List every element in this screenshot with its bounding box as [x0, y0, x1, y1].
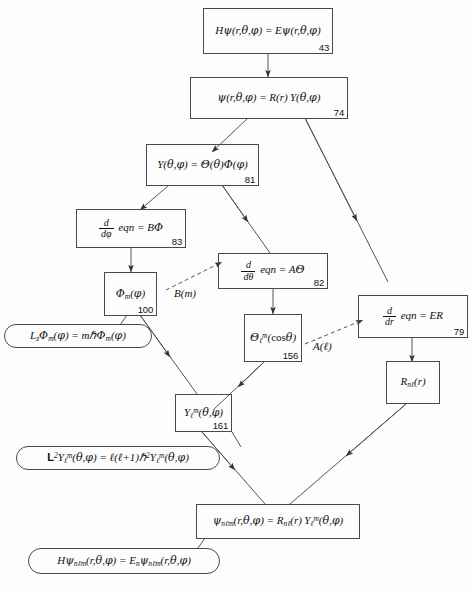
node-y-separation: Y(θ,φ) = Θ(θ)Φ(φ) 81 — [146, 144, 259, 186]
node-equation: Hψnℓm(r,θ,φ) = Enψnℓm(r,θ,φ) — [57, 554, 191, 569]
node-page-number: 161 — [213, 420, 228, 431]
node-equation: L2Yℓm(θ,φ) = ℓ(ℓ+1)ℏ2Yℓm(θ,φ) — [47, 451, 189, 466]
node-equation: Rnℓ(r) — [400, 375, 425, 390]
node-theta-lm-solution: Θℓm(cosθ) 156 — [244, 314, 302, 362]
edge-81-to-82-head — [222, 185, 248, 222]
edge-label-a-of-ell: A(ℓ) — [313, 340, 332, 352]
node-equation: Y(θ,φ) = Θ(θ)Φ(φ) — [157, 158, 248, 172]
edge-R-to-psi — [290, 404, 406, 504]
edge-psi-to-H — [198, 538, 205, 548]
edge-R-to-psi-head — [346, 404, 406, 456]
node-equation: ψnℓm(r,θ,φ) = Rnℓ(r) Yℓm(θ,φ) — [213, 514, 344, 529]
node-equation: LzΦm(φ) = mℏΦm(φ) — [30, 329, 126, 344]
node-full-wavefunction: ψnℓm(r,θ,φ) = Rnℓ(r) Yℓm(θ,φ) — [196, 504, 360, 539]
node-spherical-harmonic: Yℓm(θ,φ) 161 — [175, 394, 232, 432]
node-page-number: 156 — [283, 350, 298, 361]
node-equation: ψ(r,θ,φ) = R(r) Y(θ,φ) — [218, 91, 321, 105]
node-page-number: 79 — [454, 326, 464, 337]
diagram-canvas: Hψ(r,θ,φ) = Eψ(r,θ,φ) 43 ψ(r,θ,φ) = R(r)… — [0, 0, 475, 593]
node-phi-m-solution: Φm(φ) 100 — [104, 272, 157, 316]
node-hamiltonian-eigen-equation: Hψ(r,θ,φ) = Eψ(r,θ,φ) 43 — [203, 8, 333, 54]
node-hamiltonian-eigenvalue: Hψnℓm(r,θ,φ) = Enψnℓm(r,θ,φ) — [28, 548, 220, 574]
edge-74-to-79-head — [305, 118, 357, 221]
edge-label-b-of-m: B(m) — [174, 287, 196, 299]
edge-161-to-L2 — [232, 432, 241, 447]
node-page-number: 82 — [314, 277, 324, 288]
edge-100-to-82-dashed — [166, 262, 222, 290]
node-psi-separation: ψ(r,θ,φ) = R(r) Y(θ,φ) 74 — [190, 77, 348, 119]
node-theta-equation: ddθ eqn = AΘ 82 — [218, 253, 328, 289]
node-equation: ddr eqn = ER — [383, 306, 443, 327]
edge-156-to-161-head — [238, 362, 264, 387]
node-phi-equation: ddφ eqn = BΦ 83 — [76, 209, 186, 248]
node-page-number: 100 — [138, 304, 153, 315]
node-page-number: 83 — [172, 236, 182, 247]
node-equation: Hψ(r,θ,φ) = Eψ(r,θ,φ) — [215, 24, 320, 38]
node-lz-eigenvalue: LzΦm(φ) = mℏΦm(φ) — [4, 324, 152, 348]
node-equation: ddθ eqn = AΘ — [241, 260, 304, 281]
node-page-number: 81 — [245, 174, 255, 185]
node-equation: Φm(φ) — [116, 287, 145, 302]
node-page-number: 43 — [319, 42, 329, 53]
node-equation: Yℓm(θ,φ) — [184, 406, 223, 421]
node-page-number: 74 — [334, 107, 344, 118]
node-radial-solution: Rnℓ(r) — [386, 361, 440, 404]
edge-81-to-83 — [140, 185, 169, 210]
edge-81-to-82 — [222, 185, 270, 253]
node-equation: Θℓm(cosθ) — [250, 331, 296, 346]
node-equation: ddφ eqn = BΦ — [99, 218, 163, 239]
node-l-squared-eigenvalue: L2Yℓm(θ,φ) = ℓ(ℓ+1)ℏ2Yℓm(θ,φ) — [16, 446, 220, 470]
node-radial-equation: ddr eqn = ER 79 — [358, 295, 468, 338]
